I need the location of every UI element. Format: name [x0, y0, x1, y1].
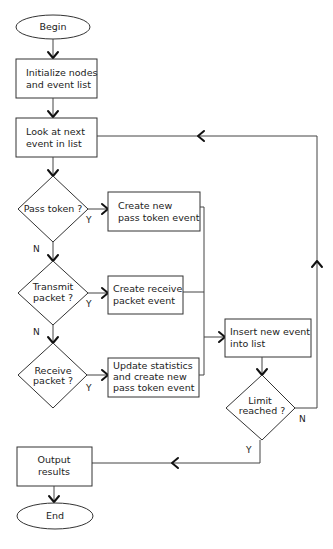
begin-terminal: Begin: [16, 15, 90, 39]
create-pass-line2: pass token event: [118, 212, 200, 223]
transmit-no-label: N: [33, 327, 40, 337]
transmit-line1: Transmit: [32, 281, 74, 292]
insert-line1: Insert new event: [230, 326, 310, 337]
update-line3: pass token event: [113, 382, 195, 393]
limit-no-label: N: [299, 414, 306, 424]
look-line1: Look at next: [26, 126, 85, 137]
output-results-process: Output results: [17, 447, 92, 486]
create-pass-token-process: Create new pass token event: [108, 192, 200, 231]
end-label: End: [46, 510, 64, 521]
output-line1: Output: [38, 454, 71, 465]
pass-yes-label: Y: [85, 215, 92, 225]
look-line2: event in list: [26, 138, 82, 149]
transmit-packet-decision: Transmit packet ?: [18, 261, 88, 325]
create-receive-line2: packet event: [113, 295, 175, 306]
update-line1: Update statistics: [113, 360, 193, 371]
receive-line2: packet ?: [33, 375, 73, 386]
limit-line2: reached ?: [239, 405, 286, 416]
limit-yes-label: Y: [245, 445, 252, 455]
receive-packet-decision: Receive packet ?: [18, 343, 87, 408]
create-receive-process: Create receive packet event: [108, 276, 183, 314]
end-terminal: End: [17, 503, 93, 529]
output-line2: results: [38, 466, 70, 477]
update-line2: and create new: [113, 371, 187, 382]
look-next-event-process: Look at next event in list: [16, 118, 97, 157]
initialize-process: Initialize nodes and event list: [16, 59, 97, 98]
receive-yes-label: Y: [85, 383, 92, 393]
transmit-line2: packet ?: [33, 292, 73, 303]
limit-reached-decision: Limit reached ?: [226, 375, 295, 440]
pass-token-label: Pass token ?: [24, 203, 83, 214]
transmit-yes-label: Y: [85, 299, 92, 309]
flowchart: Begin Initialize nodes and event list Lo…: [0, 0, 333, 549]
pass-token-decision: Pass token ?: [18, 176, 88, 242]
pass-no-label: N: [33, 244, 40, 254]
begin-label: Begin: [39, 21, 66, 32]
init-line2: and event list: [26, 79, 91, 90]
insert-event-process: Insert new event into list: [225, 319, 311, 357]
create-pass-line1: Create new: [118, 200, 172, 211]
insert-line2: into list: [230, 338, 265, 349]
init-line1: Initialize nodes: [26, 67, 97, 78]
update-statistics-process: Update statistics and create new pass to…: [108, 358, 199, 397]
create-receive-line1: Create receive: [113, 283, 182, 294]
